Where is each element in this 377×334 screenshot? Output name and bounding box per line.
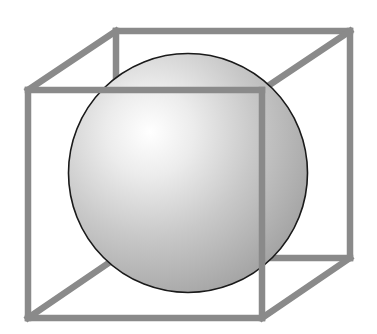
cube-edge-bottom-left-depth — [28, 258, 116, 318]
cube-edge-bottom-right-depth — [262, 258, 350, 318]
cube-edge-top-right-depth — [262, 31, 350, 90]
sphere-in-cube-diagram — [0, 0, 377, 334]
cube-edge-top-left-depth — [28, 31, 116, 90]
diagram-svg — [0, 0, 377, 334]
